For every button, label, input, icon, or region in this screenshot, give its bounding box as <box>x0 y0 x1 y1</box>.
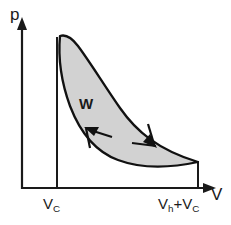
vc2-main: V <box>182 195 192 212</box>
volume-axis-label: V <box>211 186 222 203</box>
vc-main: V <box>43 195 53 212</box>
max-volume-tick-label: Vh+VC <box>158 196 199 211</box>
volume-axis <box>21 183 216 193</box>
pv-diagram-figure: p V W VC Vh+VC <box>0 0 231 225</box>
pressure-axis <box>17 17 27 189</box>
pv-diagram-svg <box>0 0 231 225</box>
work-area-label: W <box>79 96 93 111</box>
vc2-subscript: C <box>192 203 199 214</box>
plus-sign: + <box>174 195 183 212</box>
vh-main: V <box>158 195 168 212</box>
vh-subscript: h <box>168 203 174 214</box>
vc-subscript: C <box>53 203 60 214</box>
clearance-volume-tick-label: VC <box>43 196 60 211</box>
pressure-axis-label: p <box>10 6 19 23</box>
